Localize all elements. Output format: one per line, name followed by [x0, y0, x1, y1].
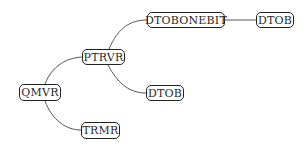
- edge-ptrvr-dtob: [108, 65, 146, 93]
- node-dtobonebit: DTOBONEBIT: [147, 12, 225, 28]
- edge-ptrvr-dtobonebit: [109, 20, 147, 49]
- node-qmvr: QMVR: [19, 84, 61, 101]
- edge-qmvr-ptrvr: [45, 57, 82, 84]
- node-dtob-right: DTOB: [256, 12, 294, 28]
- edge-qmvr-trmr: [45, 101, 81, 130]
- node-ptrvr: PTRVR: [82, 49, 125, 65]
- node-trmr: TRMR: [81, 122, 120, 139]
- node-dtob-middle: DTOB: [146, 85, 184, 101]
